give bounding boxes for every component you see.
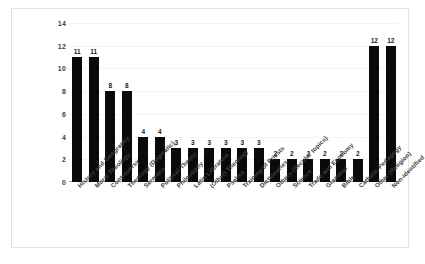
bar-value-label: 2 [356,151,360,158]
chart-frame: 02468101214 111188443333332222221212 His… [11,8,409,248]
bar-value-label: 3 [224,140,228,147]
bar-value-label: 12 [387,38,394,45]
bar-rect[interactable] [72,57,82,182]
y-tick-label: 2 [62,156,66,163]
bar-value-label: 2 [323,151,327,158]
bar[interactable]: 3 [171,23,181,182]
bar[interactable]: 3 [204,23,214,182]
y-tick-label: 10 [58,65,66,72]
bar-value-label: 11 [90,49,97,56]
bar-value-label: 2 [290,151,294,158]
bar[interactable]: 4 [138,23,148,182]
bar-value-label: 3 [191,140,195,147]
y-axis-line [69,23,70,182]
bar-value-label: 3 [257,140,261,147]
bar-value-label: 4 [158,129,162,136]
x-axis: History and GeographyMoral TheologyContr… [69,184,409,244]
gridline [69,46,399,47]
gridline [69,114,399,115]
bar-value-label: 11 [74,49,81,56]
bar[interactable]: 2 [353,23,363,182]
bar-value-label: 3 [207,140,211,147]
bar[interactable]: 2 [320,23,330,182]
y-tick-label: 8 [62,88,66,95]
gridline [69,137,399,138]
bar[interactable]: 3 [254,23,264,182]
bar-value-label: 12 [371,38,378,45]
y-tick-label: 4 [62,133,66,140]
bar-value-label: 3 [240,140,244,147]
y-tick-label: 12 [58,42,66,49]
bar-value-label: 8 [125,83,129,90]
gridline [69,23,399,24]
gridline [69,68,399,69]
bar-value-label: 8 [108,83,112,90]
gridline [69,91,399,92]
bar[interactable]: 2 [287,23,297,182]
y-tick-label: 14 [58,20,66,27]
bar[interactable]: 11 [72,23,82,182]
bar-value-label: 4 [141,129,145,136]
y-tick-label: 6 [62,110,66,117]
bar[interactable]: 12 [369,23,379,182]
y-tick-label: 0 [62,179,66,186]
y-axis: 02468101214 [42,23,66,182]
bar[interactable]: 11 [89,23,99,182]
